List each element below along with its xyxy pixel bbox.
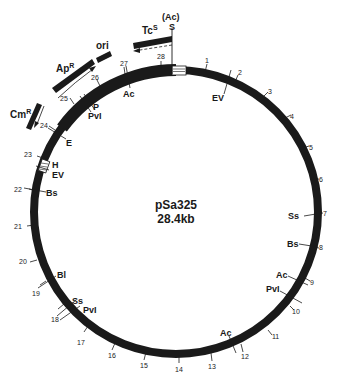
svg-text:20: 20: [19, 258, 27, 265]
svg-text:18: 18: [51, 316, 59, 323]
svg-text:11: 11: [272, 333, 279, 340]
plasmid-size: 28.4kb: [157, 212, 194, 226]
gene-cm: CmR: [10, 103, 44, 130]
svg-text:6: 6: [319, 176, 323, 183]
hatched-box-top: [172, 66, 186, 75]
gene-label-cm: Cm: [10, 109, 26, 120]
site-label-PvI-10: PvI: [266, 284, 280, 294]
svg-text:15: 15: [140, 362, 148, 369]
svg-text:4: 4: [290, 113, 294, 120]
svg-text:21: 21: [14, 223, 22, 230]
gene-tc: TcS: [133, 24, 172, 53]
svg-text:19: 19: [32, 290, 40, 297]
svg-text:8: 8: [319, 244, 323, 251]
svg-text:23: 23: [24, 151, 32, 158]
site-label-H: H: [52, 160, 59, 170]
gene-label-ap: Ap: [56, 63, 69, 74]
insert-region: [62, 70, 176, 128]
site-label-E: E: [66, 138, 72, 148]
svg-text:25: 25: [60, 95, 68, 102]
svg-text:ori: ori: [96, 40, 109, 51]
svg-text:22: 22: [14, 186, 22, 193]
site-label-Bl: Bl: [57, 270, 66, 280]
svg-text:TcS: TcS: [142, 24, 158, 36]
svg-text:5: 5: [309, 144, 313, 151]
gene-ap: ApR: [52, 59, 96, 98]
svg-text:7: 7: [323, 210, 327, 217]
site-label-PvI-25: PvI: [88, 111, 102, 121]
svg-text:10: 10: [292, 308, 300, 315]
svg-text:27: 27: [120, 60, 128, 67]
site-label-PvI-18: PvI: [83, 305, 97, 315]
plasmid-name: pSa325: [155, 198, 197, 212]
svg-text:ApR: ApR: [56, 62, 74, 74]
svg-text:2: 2: [238, 69, 242, 76]
site-label-Ss: Ss: [288, 211, 299, 221]
svg-text:28: 28: [157, 53, 165, 60]
svg-text:3: 3: [268, 88, 272, 95]
plasmid-map: (Ac) S TcS ori ApR CmR 1 2 3 4 5 6: [0, 0, 337, 386]
gene-ori: ori: [96, 40, 112, 63]
svg-text:14: 14: [175, 366, 183, 373]
site-label-Ac-9: Ac: [276, 270, 288, 280]
site-label-Bs-22: Bs: [46, 188, 58, 198]
svg-text:16: 16: [108, 352, 116, 359]
svg-text:24: 24: [40, 122, 48, 129]
svg-text:13: 13: [208, 363, 216, 370]
site-label-Ac-27: Ac: [123, 89, 135, 99]
site-label-S: S: [169, 22, 175, 32]
svg-text:1: 1: [205, 57, 209, 64]
svg-text:26: 26: [91, 74, 99, 81]
gene-label-tc: Tc: [142, 25, 153, 36]
site-label-Ac-12: Ac: [220, 328, 232, 338]
svg-text:9: 9: [310, 279, 314, 286]
svg-text:CmR: CmR: [10, 108, 31, 120]
site-label-Bs: Bs: [287, 239, 299, 249]
site-label-ac-top: (Ac): [162, 12, 180, 22]
svg-text:12: 12: [241, 353, 249, 360]
site-label-EV-23: EV: [52, 170, 64, 180]
site-label-EV: EV: [212, 93, 224, 103]
site-label-Ss-18: Ss: [72, 296, 83, 306]
svg-text:17: 17: [77, 339, 85, 346]
